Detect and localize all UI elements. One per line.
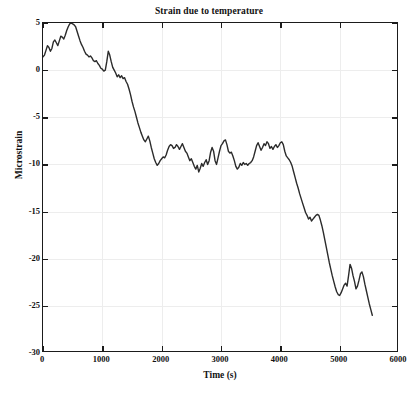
chart-title: Strain due to temperature (0, 6, 418, 16)
plot-area (42, 22, 398, 352)
y-axis-title: Microstrain (14, 100, 24, 210)
y-tickmark (392, 164, 397, 165)
y-tickmark (43, 306, 48, 307)
x-tick-label: 6000 (376, 354, 418, 364)
x-tickmark (102, 23, 103, 28)
x-tick-label: 5000 (317, 354, 361, 364)
y-tick-label: -20 (4, 253, 40, 263)
y-tick-label: -25 (4, 300, 40, 310)
data-series-line (43, 23, 398, 352)
x-tickmark (280, 346, 281, 351)
x-tickmark (162, 346, 163, 351)
x-axis-title: Time (s) (42, 370, 398, 380)
y-tickmark (43, 259, 48, 260)
y-tickmark (392, 259, 397, 260)
y-tickmark (43, 70, 48, 71)
x-tick-label: 1000 (79, 354, 123, 364)
x-tickmark (221, 346, 222, 351)
x-tick-label: 0 (20, 354, 64, 364)
y-tickmark (392, 23, 397, 24)
x-axis-tick-labels: 0100020003000400050006000 (42, 354, 398, 368)
x-tickmark (43, 346, 44, 351)
y-tickmark (392, 306, 397, 307)
x-tickmark (162, 23, 163, 28)
y-tick-label: 5 (4, 17, 40, 27)
x-tickmark (43, 23, 44, 28)
x-tick-label: 3000 (198, 354, 242, 364)
y-tickmark (43, 212, 48, 213)
y-tickmark (392, 117, 397, 118)
y-tickmark (392, 70, 397, 71)
x-tickmark (280, 23, 281, 28)
x-tick-label: 4000 (257, 354, 301, 364)
x-tickmark (221, 23, 222, 28)
x-tickmark (340, 346, 341, 351)
y-tickmark (43, 164, 48, 165)
y-tickmark (392, 212, 397, 213)
x-tick-label: 2000 (139, 354, 183, 364)
y-tick-label: 0 (4, 64, 40, 74)
chart-figure: Strain due to temperature 50-5-10-15-20-… (0, 0, 418, 404)
y-tickmark (43, 117, 48, 118)
x-tickmark (340, 23, 341, 28)
x-tickmark (102, 346, 103, 351)
